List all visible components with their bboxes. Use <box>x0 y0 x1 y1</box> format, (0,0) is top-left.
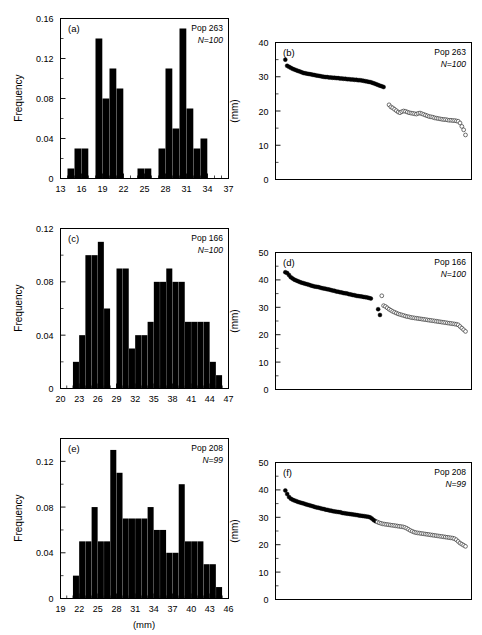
data-point-open <box>462 128 466 132</box>
panel-f-svg: 01020304050 (f) Pop 208 N=99 (mm) <box>241 420 482 635</box>
histogram-bar <box>173 129 180 179</box>
histogram-bar <box>68 169 75 179</box>
y-tick-label: 40 <box>258 38 268 48</box>
x-tick-label: 22 <box>118 184 128 194</box>
histogram-bar <box>117 89 124 179</box>
y-tick-label: 0 <box>263 175 268 185</box>
y-tick-label: 30 <box>258 303 268 313</box>
y-tick-label: 20 <box>258 540 268 550</box>
histogram-bar <box>117 473 123 599</box>
histogram-bar <box>92 255 98 388</box>
histogram-bar <box>104 309 110 389</box>
panel-c-svg: 20232629323538414447 00.040.080.12 (c) P… <box>0 210 241 420</box>
panel-f-label: (f) <box>283 467 292 478</box>
histogram-bar <box>159 149 166 179</box>
y-tick-label: 0.04 <box>36 134 54 144</box>
histogram-bar <box>194 149 201 179</box>
panel-a: 131619222528313437 00.040.080.120.16 (a)… <box>0 0 241 210</box>
panel-a-svg: 131619222528313437 00.040.080.120.16 (a)… <box>0 0 241 210</box>
panel-c-ylabel: Frequency <box>13 284 24 331</box>
x-tick-label: 29 <box>111 394 121 404</box>
panel-a-pop-label: Pop 263 <box>191 23 223 33</box>
x-tick-label: 32 <box>130 394 140 404</box>
x-tick-label: 43 <box>205 604 215 614</box>
histogram-bar <box>92 507 98 598</box>
histogram-bar <box>191 322 197 389</box>
y-tick-label: 10 <box>258 568 268 578</box>
panel-e-xlabel: (mm) <box>133 619 155 630</box>
data-point-filled <box>283 58 287 62</box>
data-point-filled <box>369 297 373 301</box>
panel-a-ylabel: Frequency <box>13 74 24 121</box>
histogram-bar <box>123 519 129 599</box>
histogram-bar <box>135 519 141 599</box>
panel-a-label: (a) <box>68 23 80 34</box>
histogram-bar <box>154 282 160 389</box>
histogram-bar <box>103 99 110 179</box>
histogram-bar <box>166 269 172 389</box>
histogram-bar <box>85 541 91 598</box>
y-tick-label: 0.12 <box>36 457 54 467</box>
data-point-open <box>464 544 468 548</box>
x-tick-label: 40 <box>186 604 196 614</box>
x-tick-label: 28 <box>160 184 170 194</box>
panel-e-n-label: N=99 <box>202 455 223 465</box>
panel-c-n-label: N=100 <box>198 245 224 255</box>
histogram-bar <box>75 149 82 179</box>
histogram-bar <box>210 564 216 598</box>
panel-d-ylabel: (mm) <box>229 309 240 332</box>
histogram-bar <box>117 269 123 389</box>
panel-d-svg: 01020304050 (d) Pop 166 N=100 (mm) <box>241 210 482 420</box>
histogram-bar <box>201 139 208 179</box>
x-tick-label: 35 <box>149 394 159 404</box>
y-tick-label: 50 <box>258 248 268 258</box>
x-tick-label: 25 <box>93 604 103 614</box>
y-tick-label: 40 <box>258 275 268 285</box>
panel-b-pop-label: Pop 263 <box>434 47 466 57</box>
histogram-bar <box>160 282 166 389</box>
panel-d: 01020304050 (d) Pop 166 N=100 (mm) <box>241 210 482 420</box>
panel-f-plot: 01020304050 <box>258 458 471 605</box>
histogram-bar <box>210 362 216 389</box>
x-tick-label: 44 <box>205 394 215 404</box>
panel-b-plot: 010203040 <box>258 38 471 185</box>
x-tick-label: 37 <box>223 184 233 194</box>
y-tick-label: 40 <box>258 485 268 495</box>
histogram-bar <box>160 530 166 599</box>
data-point-filled <box>376 307 380 311</box>
y-tick-label: 0.12 <box>36 54 54 64</box>
x-tick-label: 25 <box>139 184 149 194</box>
histogram-bar <box>129 349 135 389</box>
histogram-bar <box>179 282 185 389</box>
y-tick-label: 0.08 <box>36 94 54 104</box>
panel-f: 01020304050 (f) Pop 208 N=99 (mm) <box>241 420 482 635</box>
y-tick-label: 10 <box>258 141 268 151</box>
panel-f-frame <box>276 463 472 600</box>
y-tick-label: 0 <box>263 595 268 605</box>
histogram-bar <box>98 242 104 389</box>
panel-b-ylabel: (mm) <box>229 99 240 122</box>
histogram-bar <box>135 335 141 388</box>
histogram-bar <box>138 169 145 179</box>
histogram-bar <box>185 541 191 598</box>
data-point-open <box>380 294 384 298</box>
histogram-bar <box>204 564 210 598</box>
panel-f-n-label: N=99 <box>445 479 466 489</box>
y-tick-label: 0 <box>48 384 53 394</box>
y-tick-label: 0.04 <box>36 331 54 341</box>
panel-e-pop-label: Pop 208 <box>191 443 223 453</box>
panel-e-ylabel: Frequency <box>13 494 24 541</box>
y-tick-label: 0.12 <box>36 224 54 234</box>
histogram-bar <box>166 69 173 179</box>
histogram-bar <box>123 269 129 389</box>
histogram-bar <box>79 541 85 598</box>
data-point-filled <box>283 488 287 492</box>
y-tick-label: 0 <box>263 385 268 395</box>
panel-a-n-label: N=100 <box>198 35 224 45</box>
histogram-bar <box>197 322 203 389</box>
x-tick-label: 26 <box>93 394 103 404</box>
x-tick-label: 16 <box>76 184 86 194</box>
panel-d-n-label: N=100 <box>441 269 467 279</box>
x-tick-label: 31 <box>130 604 140 614</box>
panel-c: 20232629323538414447 00.040.080.12 (c) P… <box>0 210 241 420</box>
